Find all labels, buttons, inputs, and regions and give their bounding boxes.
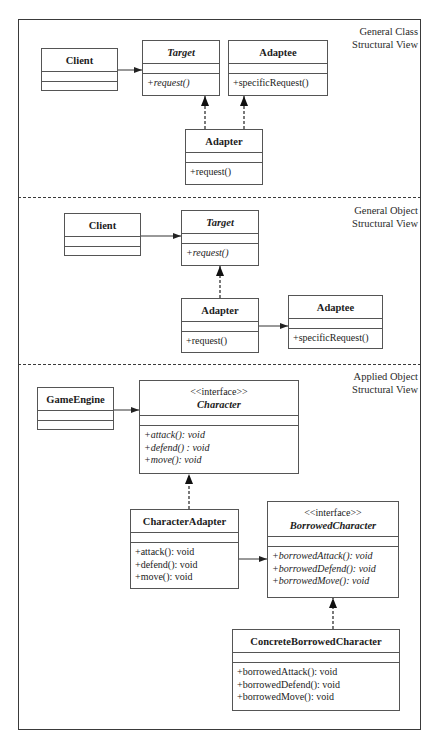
stereotype: <<interface>> — [304, 506, 362, 519]
operation: +request() — [186, 335, 254, 348]
class-adapter: Adapter +request() — [181, 298, 259, 353]
class-operations — [42, 82, 117, 90]
class-attributes — [268, 537, 398, 547]
class-target: Target +request() — [181, 210, 259, 266]
operation: +borrowedDefend(): void — [237, 679, 395, 692]
operation: +borrowedAttack(): void — [237, 666, 395, 679]
interface-character: <<interface>> Character +attack(): void … — [139, 380, 299, 474]
class-name: Adapter — [201, 304, 238, 317]
class-operations: +request() — [182, 244, 258, 265]
operation: +defend() : void — [144, 442, 294, 455]
class-name: Target — [206, 216, 234, 229]
operation: +borrowedDefend(): void — [272, 563, 394, 576]
class-client: Client — [41, 48, 118, 91]
class-operations: +specificRequest() — [229, 74, 327, 95]
class-name: GameEngine — [46, 393, 104, 406]
operation: +defend(): void — [135, 559, 234, 572]
operation: +move(): void — [144, 454, 294, 467]
class-attributes — [186, 153, 262, 163]
class-attributes — [233, 653, 399, 663]
class-name: Adapter — [205, 135, 242, 148]
class-game-engine: GameEngine — [37, 387, 114, 430]
operation: +borrowedMove(): void — [237, 691, 395, 704]
operation: +move(): void — [135, 571, 234, 584]
operation: +borrowedMove(): void — [272, 575, 394, 588]
class-adaptee: Adaptee +specificRequest() — [228, 40, 328, 96]
interface-borrowed-character: <<interface>> BorrowedCharacter +borrowe… — [267, 501, 399, 598]
class-operations: +request() — [182, 332, 258, 352]
class-adapter: Adapter +request() — [185, 129, 263, 185]
class-attributes — [38, 411, 113, 421]
class-operations: +request() — [143, 74, 219, 95]
section-label-general-object: General Object Structural View — [352, 204, 418, 230]
class-name: Target — [167, 46, 195, 59]
section-label-line1: Applied Object — [352, 370, 418, 383]
section-divider-2 — [18, 364, 421, 365]
section-divider-1 — [18, 197, 421, 198]
class-operations: +borrowedAttack(): void +borrowedDefend(… — [268, 547, 398, 597]
section-label-general-class: General Class Structural View — [352, 25, 418, 51]
class-target: Target +request() — [142, 40, 220, 96]
operation: +attack(): void — [144, 429, 294, 442]
operation: +request() — [147, 77, 215, 90]
class-name: Adaptee — [317, 301, 354, 314]
class-operations: +specificRequest() — [289, 329, 382, 348]
class-operations: +attack(): void +defend() : void +move()… — [140, 426, 298, 473]
class-attributes — [182, 234, 258, 244]
section-label-line1: General Object — [352, 204, 418, 217]
operation: +specificRequest() — [293, 332, 378, 345]
class-operations — [38, 421, 113, 429]
class-concrete-borrowed-character: ConcreteBorrowedCharacter +borrowedAttac… — [232, 629, 400, 711]
class-adaptee: Adaptee +specificRequest() — [288, 295, 383, 349]
class-character-adapter: CharacterAdapter +attack(): void +defend… — [130, 509, 239, 589]
section-label-line2: Structural View — [352, 38, 418, 51]
class-attributes — [42, 72, 117, 82]
section-label-line2: Structural View — [352, 383, 418, 396]
class-attributes — [65, 237, 140, 247]
class-name: CharacterAdapter — [143, 515, 226, 528]
operation: +request() — [186, 247, 254, 260]
class-attributes — [229, 64, 327, 74]
operation: +specificRequest() — [233, 77, 323, 90]
section-label-line2: Structural View — [352, 217, 418, 230]
class-name: ConcreteBorrowedCharacter — [250, 635, 381, 648]
class-name: Adaptee — [259, 46, 296, 59]
class-name: Client — [89, 219, 116, 232]
class-name: Client — [66, 54, 93, 67]
class-operations: +request() — [186, 163, 262, 184]
class-name: Character — [197, 398, 241, 411]
class-attributes — [131, 533, 238, 543]
section-label-line1: General Class — [352, 25, 418, 38]
class-name: BorrowedCharacter — [290, 519, 376, 532]
section-label-applied-object: Applied Object Structural View — [352, 370, 418, 396]
class-attributes — [140, 416, 298, 426]
class-attributes — [182, 322, 258, 332]
stereotype: <<interface>> — [190, 385, 248, 398]
operation: +attack(): void — [135, 546, 234, 559]
operation: +request() — [190, 166, 258, 179]
class-client: Client — [64, 213, 141, 256]
class-operations: +borrowedAttack(): void +borrowedDefend(… — [233, 663, 399, 710]
class-attributes — [289, 319, 382, 329]
operation: +borrowedAttack(): void — [272, 550, 394, 563]
class-attributes — [143, 64, 219, 74]
class-operations: +attack(): void +defend(): void +move():… — [131, 543, 238, 588]
class-operations — [65, 247, 140, 255]
